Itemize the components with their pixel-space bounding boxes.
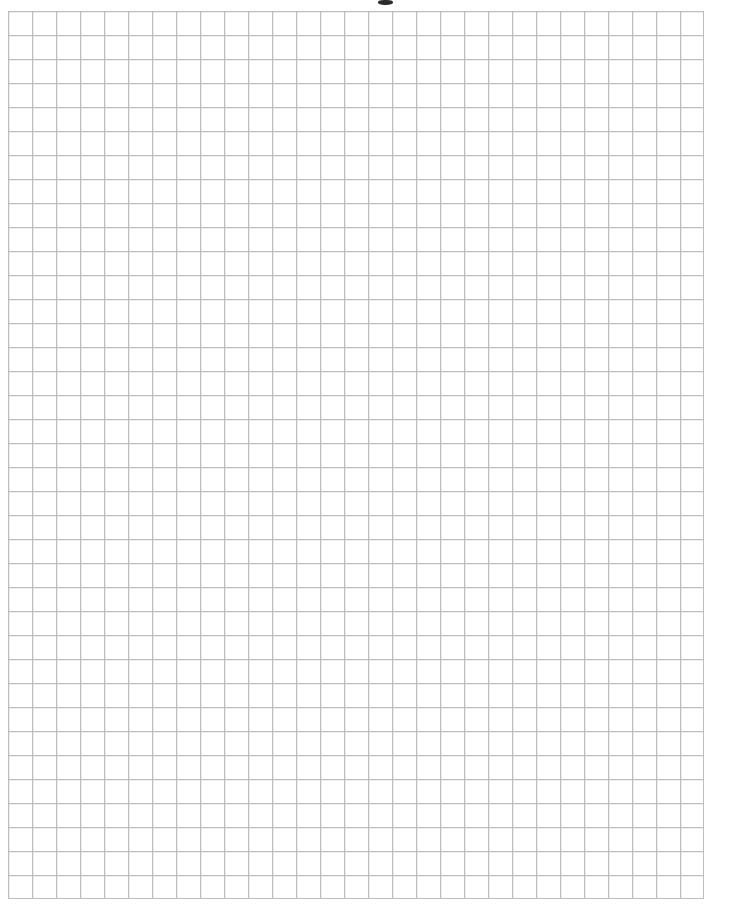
graph-paper-grid	[8, 11, 704, 899]
clipped-title-descender-mark	[378, 0, 393, 5]
graph-paper-page	[0, 0, 735, 905]
grid-lines-softened	[8, 11, 704, 899]
grid-minor-lines	[8, 11, 704, 899]
grid-outer-border	[8, 11, 704, 899]
